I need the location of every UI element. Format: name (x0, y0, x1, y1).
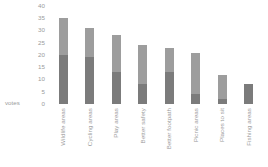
bar-slot (156, 6, 183, 104)
bar-segment-lower (112, 72, 121, 104)
x-axis-tick-label: Places to sit (219, 108, 225, 142)
bar[interactable] (191, 53, 200, 104)
bar-slot (103, 6, 130, 104)
plot-area (50, 6, 262, 104)
bar-slot (130, 6, 157, 104)
bar-segment-lower (244, 84, 253, 104)
bar-slot (50, 6, 77, 104)
bar-segment-upper (191, 53, 200, 95)
y-axis-title: votes (5, 100, 20, 106)
x-axis: Wildlife areasCycling areasPlay areasBet… (50, 108, 262, 167)
x-axis-label-slot: Play areas (103, 108, 130, 167)
bar[interactable] (165, 48, 174, 104)
bar[interactable] (112, 35, 121, 104)
bar-segment-lower (138, 84, 147, 104)
y-axis-tick-label: 20 (28, 52, 45, 58)
x-axis-tick-label: Wildlife areas (60, 108, 66, 146)
bar-slot (236, 6, 263, 104)
bar-segment-upper (112, 35, 121, 72)
bar[interactable] (218, 75, 227, 104)
bar-chart: 4035302520151050 votes Wildlife areasCyc… (0, 0, 268, 167)
bar-segment-upper (218, 75, 227, 99)
bar-segment-lower (59, 55, 68, 104)
bar-segment-lower (191, 94, 200, 104)
y-axis-tick-label: 40 (28, 3, 45, 9)
bar-segment-lower (218, 99, 227, 104)
bar-segment-upper (138, 45, 147, 84)
x-axis-tick-label: Cycling areas (87, 108, 93, 146)
x-axis-label-slot: Wildlife areas (50, 108, 77, 167)
y-axis-tick-label: 30 (28, 27, 45, 33)
y-axis-tick-label: 25 (28, 40, 45, 46)
y-axis-tick-label: 0 (28, 101, 45, 107)
bar-segment-lower (165, 72, 174, 104)
x-axis-label-slot: Picnic areas (183, 108, 210, 167)
x-axis-label-slot: Cycling areas (77, 108, 104, 167)
y-axis-tick-label: 15 (28, 64, 45, 70)
bar[interactable] (85, 28, 94, 104)
bar-slot (77, 6, 104, 104)
x-axis-tick-label: Picnic areas (193, 108, 199, 142)
bar-slot (183, 6, 210, 104)
bar-segment-upper (85, 28, 94, 57)
bar[interactable] (138, 45, 147, 104)
bar-slot (209, 6, 236, 104)
x-axis-label-slot: Fishing areas (236, 108, 263, 167)
x-axis-tick-label: Better footpath (166, 108, 172, 149)
x-axis-tick-label: Better safety (140, 108, 146, 143)
x-axis-label-slot: Better footpath (156, 108, 183, 167)
x-axis-tick-label: Fishing areas (246, 108, 252, 146)
y-axis-tick-label: 35 (28, 15, 45, 21)
y-axis-tick-label: 10 (28, 76, 45, 82)
x-axis-tick-label: Play areas (113, 108, 119, 138)
x-axis-label-slot: Better safety (130, 108, 157, 167)
bar[interactable] (244, 84, 253, 104)
bar-segment-upper (59, 18, 68, 55)
bar-segment-upper (165, 48, 174, 72)
x-axis-label-slot: Places to sit (209, 108, 236, 167)
bar[interactable] (59, 18, 68, 104)
y-axis-tick-label: 5 (28, 89, 45, 95)
y-axis: 4035302520151050 (28, 6, 45, 104)
bar-segment-lower (85, 57, 94, 104)
